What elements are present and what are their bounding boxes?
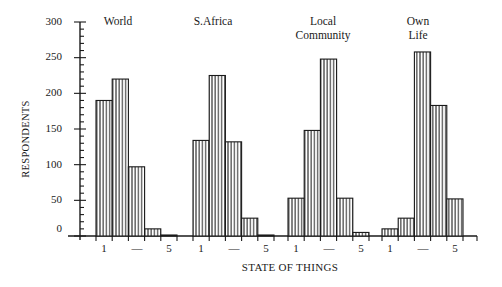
bar — [353, 232, 369, 236]
bar — [431, 105, 447, 236]
bar — [145, 229, 161, 236]
x-tick-world-5: 5 — [161, 242, 177, 254]
group-label-local-line2: Community — [293, 28, 353, 42]
bar — [414, 52, 430, 236]
x-tick-own-1: 1 — [382, 242, 398, 254]
y-tick-100: 100 — [32, 158, 62, 170]
group-label-own-line2: Life — [400, 28, 436, 42]
group-label-world: World — [98, 14, 138, 28]
bars — [96, 52, 463, 236]
y-tick-0: 0 — [32, 222, 62, 234]
x-tick-safrica-5: 5 — [258, 242, 274, 254]
x-tick-own-dash: — — [415, 242, 431, 254]
bar — [258, 235, 274, 236]
x-tick-local-dash: — — [321, 242, 337, 254]
x-tick-own-5: 5 — [447, 242, 463, 254]
x-tick-safrica-1: 1 — [193, 242, 209, 254]
x-tick-world-1: 1 — [96, 242, 112, 254]
group-label-local-line1: Local — [293, 14, 353, 28]
bar — [128, 167, 144, 236]
y-tick-150: 150 — [32, 122, 62, 134]
bar — [96, 100, 112, 236]
x-tick-safrica-dash: — — [226, 242, 242, 254]
group-label-own-line1: Own — [400, 14, 436, 28]
bar — [209, 76, 225, 237]
x-tick-local-5: 5 — [353, 242, 369, 254]
y-tick-200: 200 — [32, 86, 62, 98]
x-tick-world-dash: — — [129, 242, 145, 254]
y-tick-300: 300 — [32, 15, 62, 27]
y-tick-250: 250 — [32, 50, 62, 62]
bar — [242, 218, 258, 236]
bar — [398, 218, 414, 236]
bar — [382, 229, 398, 236]
bar — [288, 198, 304, 236]
bar — [304, 130, 320, 236]
group-label-safrica: S.Africa — [188, 14, 238, 28]
y-tick-50: 50 — [32, 193, 62, 205]
bar — [112, 79, 128, 236]
bar — [320, 59, 336, 236]
x-axis-label: STATE OF THINGS — [220, 261, 360, 273]
bar — [225, 142, 241, 236]
bar — [161, 235, 177, 236]
bar — [337, 198, 353, 236]
bar — [447, 199, 463, 236]
bar — [193, 140, 209, 236]
x-tick-local-1: 1 — [288, 242, 304, 254]
